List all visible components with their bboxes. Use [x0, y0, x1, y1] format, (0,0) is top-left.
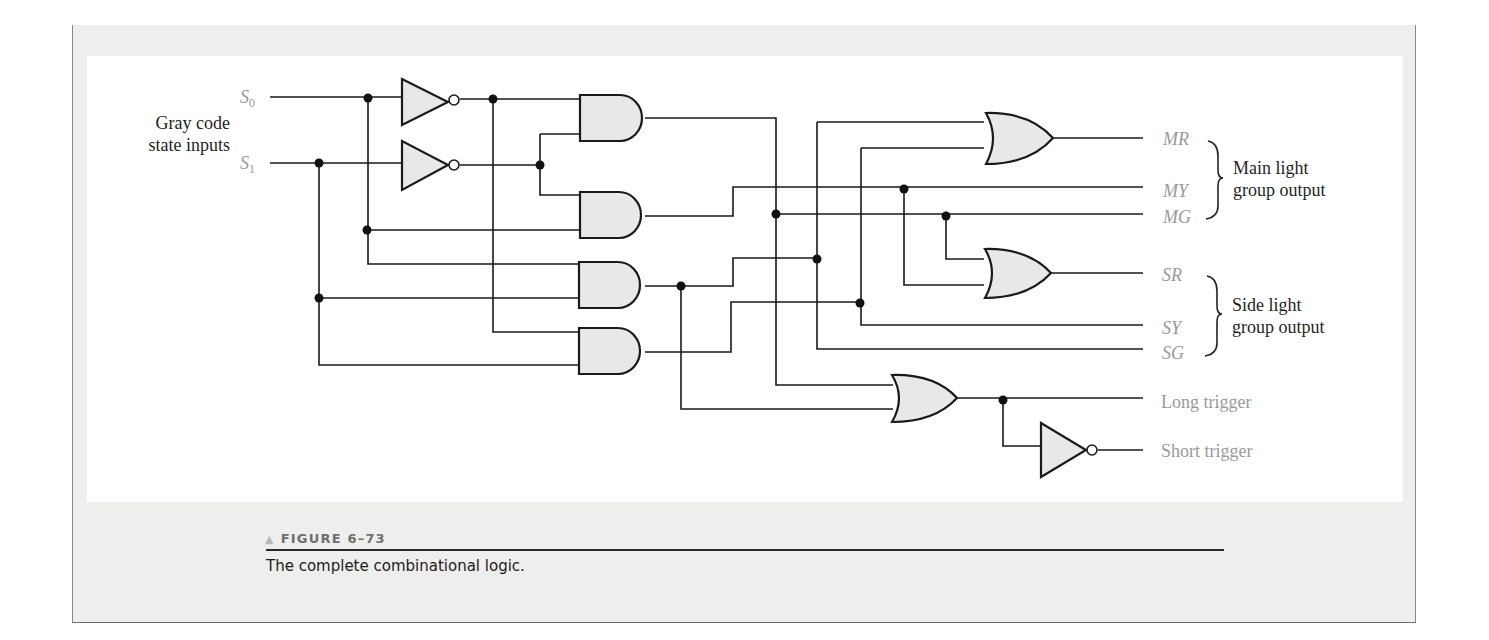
or-gate-long-trigger — [892, 375, 957, 422]
and-gate-3 — [579, 262, 640, 308]
and-gate-1 — [580, 95, 642, 141]
figure-caption: The complete combinational logic. — [266, 557, 525, 575]
side-group-label: Side light group output — [1232, 294, 1325, 338]
output-label-mg: MG — [1163, 208, 1191, 226]
or-gate-side-red — [985, 249, 1051, 298]
output-label-my: MY — [1163, 182, 1188, 200]
and-gate-2 — [580, 192, 641, 238]
input-group-label: Gray code state inputs — [140, 112, 230, 156]
brace-side-group — [1205, 276, 1222, 356]
output-label-sy: SY — [1162, 319, 1181, 337]
output-label-mr: MR — [1163, 130, 1189, 148]
inverter-short-trigger — [1041, 423, 1097, 477]
input-label-s1: S1 — [240, 154, 255, 175]
caption-divider — [266, 549, 1224, 551]
triangle-marker-icon: ▲ — [265, 533, 275, 546]
or-gate-main-red — [986, 113, 1053, 164]
brace-main-group — [1206, 141, 1223, 219]
input-group-label-line1: Gray code — [140, 112, 230, 134]
input-label-s0: S0 — [240, 88, 255, 109]
and-gate-4 — [579, 328, 640, 374]
inverter-s1 — [402, 141, 459, 190]
inverter-s0 — [402, 79, 459, 125]
output-label-sg: SG — [1162, 344, 1184, 362]
input-group-label-line2: state inputs — [140, 134, 230, 156]
output-label-short-trigger: Short trigger — [1161, 442, 1253, 460]
output-label-long-trigger: Long trigger — [1161, 393, 1251, 411]
output-label-sr: SR — [1162, 266, 1182, 284]
main-group-label: Main light group output — [1233, 157, 1326, 201]
figure-number: ▲FIGURE 6–73 — [265, 531, 386, 546]
